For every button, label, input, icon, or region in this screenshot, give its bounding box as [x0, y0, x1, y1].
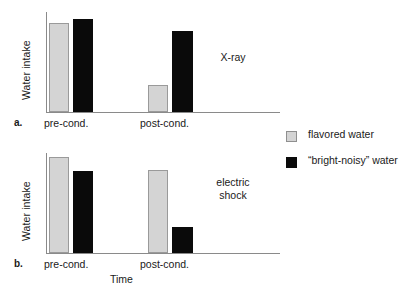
legend-swatch-flavored-water-icon [286, 131, 297, 142]
x-axis-line-b [46, 253, 280, 254]
figure-container: Water intake X-ray a. pre-cond. post-con… [0, 0, 414, 289]
bar-pre-cond-bright-noisy-b [73, 171, 93, 253]
x-tick-label-a-pre-cond: pre-cond. [44, 117, 88, 129]
bar-pre-cond-flavored-a [49, 23, 69, 112]
legend-label-flavored-water: flavored water [308, 128, 374, 140]
bar-pre-cond-bright-noisy-a [73, 19, 93, 112]
panel-letter-b: b. [14, 258, 23, 269]
y-axis-line-a [46, 12, 47, 112]
x-tick-label-b-pre-cond: pre-cond. [44, 258, 88, 270]
x-tick-label-b-post-cond: post-cond. [140, 258, 189, 270]
x-tick-label-a-post-cond: post-cond. [140, 117, 189, 129]
y-axis-label-a: Water intake [20, 40, 32, 100]
bar-post-cond-bright-noisy-a [172, 31, 193, 112]
x-axis-line-a [46, 112, 280, 113]
chart-panel-b: Water intake electric shock b. pre-cond.… [0, 140, 280, 289]
legend-swatch-bright-noisy-water-icon [286, 157, 297, 168]
bar-pre-cond-flavored-b [49, 157, 69, 253]
bar-post-cond-flavored-a [148, 85, 168, 112]
y-axis-label-b: Water intake [20, 181, 32, 241]
legend-label-bright-noisy-water: “bright-noisy” water [308, 154, 398, 166]
panel-letter-a: a. [14, 117, 22, 128]
x-axis-label-b: Time [110, 273, 133, 285]
condition-note-a: X-ray [198, 51, 268, 64]
legend: flavored water “bright-noisy” water [286, 128, 414, 180]
chart-panel-a: Water intake X-ray a. pre-cond. post-con… [0, 0, 280, 134]
legend-item-bright-noisy-water: “bright-noisy” water [286, 154, 414, 180]
legend-item-flavored-water: flavored water [286, 128, 414, 154]
bar-post-cond-flavored-b [148, 170, 168, 253]
y-axis-line-b [46, 153, 47, 253]
bar-post-cond-bright-noisy-b [172, 227, 193, 253]
condition-note-b: electric shock [198, 176, 268, 202]
